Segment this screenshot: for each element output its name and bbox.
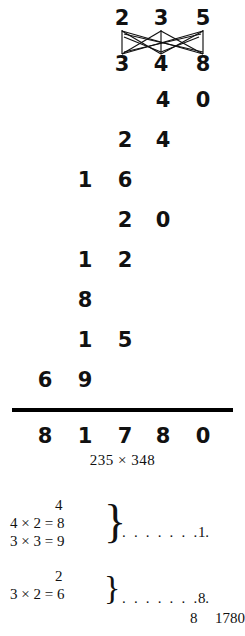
- digit-cell: 8: [74, 288, 96, 312]
- digit-cell: 4: [152, 88, 174, 112]
- lattice-bottom-digit-2: 4: [151, 54, 171, 75]
- equation-stack: 4 4 × 2 = 8 3 × 3 = 9: [10, 497, 64, 550]
- lattice-multiplication-figure: 2 3 5 3 4 8 4 0 2 4 1 6: [0, 0, 245, 636]
- digit-cell: 9: [74, 368, 96, 392]
- partial-row: 1 5: [0, 328, 245, 368]
- result-digit: 8: [34, 423, 56, 449]
- digit-cell: 0: [192, 88, 214, 112]
- sum-rule-divider: [12, 408, 233, 412]
- partial-row: 1 2: [0, 248, 245, 288]
- digit-cell: 1: [74, 248, 96, 272]
- figure-caption: 235 × 348: [0, 452, 245, 469]
- equation-line: 3 × 2 = 6: [10, 585, 64, 603]
- digit-cell: 4: [152, 128, 174, 152]
- equation-line: 4 × 2 = 8: [10, 514, 64, 532]
- carry-digit: 4: [55, 497, 65, 514]
- final-total-value: 1780: [215, 610, 245, 627]
- digit-cell: 2: [114, 128, 136, 152]
- partial-row: 2 4: [0, 128, 245, 168]
- result-digit: 7: [114, 423, 136, 449]
- result-digit: 0: [192, 423, 214, 449]
- equation-line: 3 × 3 = 9: [10, 532, 64, 550]
- digit-cell: 6: [114, 168, 136, 192]
- digit-cell: 2: [114, 208, 136, 232]
- product-result-row: 8 1 7 8 0: [0, 423, 245, 453]
- partial-row: 2 0: [0, 208, 245, 248]
- final-sum-line: 8 1780: [0, 610, 245, 632]
- digit-cell: 0: [152, 208, 174, 232]
- result-digit: 1: [74, 423, 96, 449]
- partial-row: 4 0: [0, 88, 245, 128]
- curly-brace-icon: }: [104, 571, 120, 605]
- partial-row: 6 9: [0, 368, 245, 408]
- explanation-block: 4 4 × 2 = 8 3 × 3 = 9 } . . . . . . . . …: [0, 497, 245, 636]
- final-carry-digit: 8: [190, 610, 198, 627]
- lattice-top-digit-3: 5: [193, 8, 213, 29]
- lattice-top-digit-2: 3: [151, 8, 171, 29]
- equation-stack: 2 3 × 2 = 6: [10, 568, 64, 603]
- carry-digit: 2: [55, 568, 65, 585]
- group-result-digit: 8: [198, 590, 206, 607]
- lattice-bottom-digit-1: 3: [112, 54, 132, 75]
- digit-cell: 1: [74, 328, 96, 352]
- lattice-diagram: 2 3 5 3 4 8: [0, 0, 245, 84]
- lattice-bottom-digit-3: 8: [193, 54, 213, 75]
- digit-cell: 2: [114, 248, 136, 272]
- lattice-top-digit-1: 2: [112, 8, 132, 29]
- digit-cell: 5: [114, 328, 136, 352]
- group-result-digit: 1: [198, 524, 206, 541]
- result-digit: 8: [152, 423, 174, 449]
- partial-row: 8: [0, 288, 245, 328]
- partial-products-grid: 4 0 2 4 1 6 2 0 1 2: [0, 88, 245, 408]
- partial-row: 1 6: [0, 168, 245, 208]
- digit-cell: 1: [74, 168, 96, 192]
- digit-cell: 6: [34, 368, 56, 392]
